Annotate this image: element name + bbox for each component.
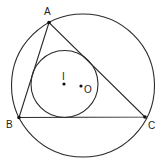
label-i: I [62, 71, 65, 82]
incenter-i-dot [62, 82, 65, 85]
circumcircle [12, 14, 155, 157]
vertex-b-dot [17, 116, 21, 120]
label-b: B [6, 119, 13, 130]
circumcenter-o-dot [79, 84, 82, 87]
label-c: C [148, 120, 155, 131]
label-a: A [44, 6, 51, 17]
vertex-c-dot [143, 115, 147, 119]
triangle-abc [19, 23, 145, 118]
geometry-diagram: A B C I O [0, 0, 165, 166]
label-o: O [84, 84, 92, 95]
vertex-a-dot [47, 21, 51, 25]
